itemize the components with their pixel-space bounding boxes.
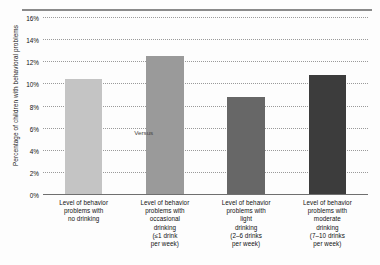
x-axis-label-line: Level of behavior xyxy=(206,199,287,207)
y-tick-label: 0% xyxy=(30,192,39,199)
x-axis-label-line: per week) xyxy=(124,240,205,248)
x-axis-label-line: Level of behavior xyxy=(124,199,205,207)
x-axis-label-line: problems with xyxy=(287,207,368,215)
x-axis-label-line: (7–10 drinks xyxy=(287,232,368,240)
x-axis-label: Level of behaviorproblems withno drinkin… xyxy=(43,199,124,224)
plot-area: 0%2%4%6%8%10%12%14%16% Versus xyxy=(43,17,368,194)
bar-slot xyxy=(124,17,205,194)
x-axis-label-line: light xyxy=(206,215,287,223)
y-tick-label: 6% xyxy=(30,125,39,132)
y-tick-label: 4% xyxy=(30,147,39,154)
x-axis-labels: Level of behaviorproblems withno drinkin… xyxy=(43,199,368,263)
y-tick-label: 12% xyxy=(26,59,39,66)
bar-slot xyxy=(206,17,287,194)
x-axis-label: Level of behaviorproblems withlightdrink… xyxy=(206,199,287,248)
x-axis-label-line: Level of behavior xyxy=(287,199,368,207)
bar[interactable] xyxy=(309,75,346,194)
y-tick-label: 16% xyxy=(26,15,39,22)
y-tick-label: 8% xyxy=(30,103,39,110)
header-divider xyxy=(22,9,372,11)
y-tick-label: 2% xyxy=(30,169,39,176)
x-axis-label: Level of behaviorproblems withoccasional… xyxy=(124,199,205,248)
y-tick-label: 10% xyxy=(26,81,39,88)
x-axis-label-line: per week) xyxy=(287,240,368,248)
bar[interactable] xyxy=(65,79,102,194)
x-axis-label-line: (2–6 drinks xyxy=(206,232,287,240)
bar[interactable] xyxy=(227,97,264,194)
x-axis-label-line: moderate xyxy=(287,215,368,223)
x-axis-label-line: no drinking xyxy=(43,215,124,223)
versus-annotation: Versus xyxy=(134,129,153,136)
x-axis-label-line: problems with xyxy=(43,207,124,215)
y-tick-label: 14% xyxy=(26,37,39,44)
y-axis-title: Percentage of children with behavioral p… xyxy=(12,3,19,189)
bar-series xyxy=(43,17,368,194)
bar-slot xyxy=(287,17,368,194)
x-axis-label-line: drinking xyxy=(124,224,205,232)
bar[interactable] xyxy=(146,56,183,194)
x-axis-label-line: problems with xyxy=(206,207,287,215)
bar-slot xyxy=(43,17,124,194)
x-axis-label-line: Level of behavior xyxy=(43,199,124,207)
x-axis-label-line: (≤1 drink xyxy=(124,232,205,240)
x-axis-label-line: occasional xyxy=(124,215,205,223)
x-axis-label: Level of behaviorproblems withmoderatedr… xyxy=(287,199,368,248)
x-axis-label-line: drinking xyxy=(206,224,287,232)
axis-baseline: 0% xyxy=(43,194,368,195)
bar-chart: Percentage of children with behavioral p… xyxy=(0,0,380,265)
x-axis-label-line: per week) xyxy=(206,240,287,248)
x-axis-label-line: drinking xyxy=(287,224,368,232)
x-axis-label-line: problems with xyxy=(124,207,205,215)
